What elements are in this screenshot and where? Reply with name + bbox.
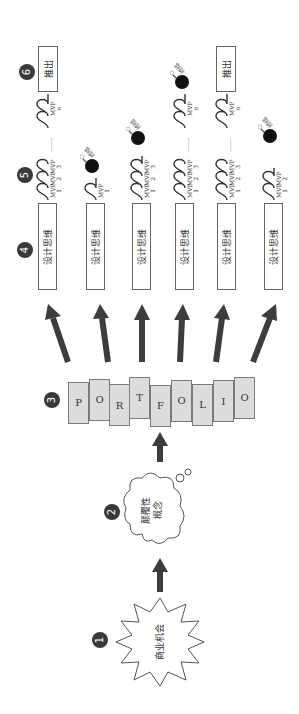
iteration-loops-icon xyxy=(130,154,144,200)
design-thinking-box-6: 设计思维 xyxy=(264,203,283,290)
step-badge-3: 3 xyxy=(44,392,60,408)
fan-arrows xyxy=(30,300,290,364)
portfolio-tile: I xyxy=(213,380,234,422)
iteration-loops-icon xyxy=(262,166,276,200)
mvp-sequence-1: MVP1 MVP2 MVP3 …… MVPn xyxy=(36,80,58,200)
step-badge-5: 5 xyxy=(17,167,33,183)
arrow-up-icon xyxy=(151,558,169,592)
business-opportunity-label: 商业机会 xyxy=(154,606,166,678)
mvp-label-3: MVP3 xyxy=(50,159,62,174)
ellipsis: …… xyxy=(183,138,191,152)
step-badge-4: 4 xyxy=(17,242,33,258)
mvp-label-2: MVP2 xyxy=(276,171,288,186)
ellipsis: …… xyxy=(46,138,54,152)
step-badge-2: 2 xyxy=(104,504,120,520)
mvp-label-3: MVP3 xyxy=(187,159,199,174)
portfolio-tile: F xyxy=(150,385,171,427)
portfolio-tile: T xyxy=(129,377,150,419)
tile-letter: O xyxy=(240,393,248,404)
design-thinking-box-4: 设计思维 xyxy=(175,203,194,290)
mvp-label-3: MVP3 xyxy=(144,159,156,174)
mvp-label-1: MVP1 xyxy=(98,183,110,198)
mvp-sequence-6: MVP1 MVP2 xyxy=(262,140,284,200)
tile-letter: O xyxy=(177,396,185,407)
mvp-sequence-4: MVP1 MVP2 MVP3 …… MVPn xyxy=(173,80,195,200)
design-thinking-box-3: 设计思维 xyxy=(132,203,151,290)
mvp-label-n: MVPn xyxy=(187,101,199,116)
tile-letter: T xyxy=(136,393,143,404)
disruptive-concept-label: 颠覆性 概念 xyxy=(140,484,164,536)
portfolio-tile: O xyxy=(89,379,110,421)
mvp-label-n: MVPn xyxy=(50,101,62,116)
mvp-label-n: MVPn xyxy=(229,101,241,116)
portfolio-tile: P xyxy=(68,382,89,424)
step-badge-1: 1 xyxy=(92,632,108,648)
tile-letter: O xyxy=(95,395,103,406)
portfolio-tile: O xyxy=(171,380,192,422)
tile-letter: F xyxy=(157,401,164,412)
iteration-loops-icon xyxy=(84,176,98,200)
tile-letter: L xyxy=(199,400,206,411)
portfolio-tile: R xyxy=(109,384,130,426)
tile-letter: P xyxy=(75,398,82,409)
portfolio-tile: O xyxy=(234,377,255,419)
mvp-sequence-5: MVP1 MVP2 MVP3 …… MVPn xyxy=(215,80,237,200)
tile-letter: I xyxy=(222,396,226,407)
ellipsis: …… xyxy=(225,138,233,152)
design-thinking-box-2: 设计思维 xyxy=(86,203,105,290)
launch-box-1: 推出 xyxy=(38,46,58,92)
tile-letter: R xyxy=(116,400,124,411)
portfolio-tile: L xyxy=(192,384,213,426)
mvp-sequence-3: MVP1 MVP2 MVP3 xyxy=(130,140,152,200)
step-badge-6: 6 xyxy=(19,64,35,80)
disruptive-concept-line-1: 颠覆性 xyxy=(140,484,152,536)
arrow-heads xyxy=(45,304,277,321)
arrow-up-icon xyxy=(151,432,169,462)
disruptive-concept-line-2: 概念 xyxy=(152,484,164,536)
design-thinking-box-1: 设计思维 xyxy=(38,203,57,290)
diagram-canvas: 1 商业机会 2 颠覆性 概念 3 P O R T F O L I O xyxy=(0,0,299,714)
launch-box-2: 推出 xyxy=(216,46,236,92)
mvp-label-3: MVP3 xyxy=(229,159,241,174)
design-thinking-box-5: 设计思维 xyxy=(217,203,236,290)
